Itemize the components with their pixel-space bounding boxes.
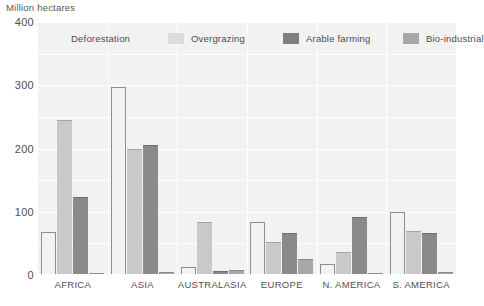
bar-group-s-america <box>386 22 456 275</box>
bar-deforestation-europe <box>250 222 265 275</box>
y-axis-tick-0: 0 <box>2 269 34 281</box>
bar-overgrazing-africa <box>57 120 72 275</box>
bar-overgrazing-n-america <box>336 252 351 275</box>
y-axis-tick-400: 400 <box>2 16 34 28</box>
x-axis-tick-africa: AFRICA <box>55 279 92 290</box>
plot-area <box>38 22 456 275</box>
bar-arable-farming-africa <box>73 197 88 275</box>
bar-overgrazing-asia <box>127 149 142 275</box>
legend-label: Overgrazing <box>191 33 245 44</box>
bar-arable-farming-europe <box>282 233 297 275</box>
bar-overgrazing-australasia <box>197 222 212 275</box>
legend-swatch-icon <box>168 33 184 44</box>
legend-item-arable-farming[interactable]: Arable farming <box>283 33 371 44</box>
bar-deforestation-s-america <box>390 212 405 275</box>
legend-label: Deforestation <box>71 33 130 44</box>
y-axis-tick-300: 300 <box>2 79 34 91</box>
legend-label: Arable farming <box>306 33 371 44</box>
bar-bio-industrial-europe <box>298 259 313 275</box>
legend-item-bio-industrial[interactable]: Bio-industrial <box>403 33 484 44</box>
legend-label: Bio-industrial <box>426 33 484 44</box>
bar-group-africa <box>38 22 108 275</box>
x-axis-tick-s-america: S. AMERICA <box>392 279 449 290</box>
bar-arable-farming-n-america <box>352 217 367 275</box>
y-axis-title: Million hectares <box>6 2 75 13</box>
bar-group-asia <box>108 22 178 275</box>
legend-item-deforestation[interactable]: Deforestation <box>48 33 130 44</box>
x-axis-tick-europe: EUROPE <box>261 279 303 290</box>
bar-overgrazing-s-america <box>406 231 421 275</box>
x-axis-tick-asia: ASIA <box>131 279 154 290</box>
bar-deforestation-asia <box>111 87 126 275</box>
bar-arable-farming-s-america <box>422 233 437 275</box>
legend-swatch-icon <box>403 33 419 44</box>
y-axis: 0100200300400 <box>0 22 34 275</box>
legend-item-overgrazing[interactable]: Overgrazing <box>168 33 245 44</box>
bar-deforestation-africa <box>41 232 56 275</box>
bar-group-n-america <box>317 22 387 275</box>
legend-swatch-icon <box>283 33 299 44</box>
x-axis-tick-n-america: N. AMERICA <box>323 279 381 290</box>
y-axis-tick-100: 100 <box>2 206 34 218</box>
x-axis-tick-australasia: AUSTRALASIA <box>178 279 247 290</box>
bar-group-australasia <box>177 22 247 275</box>
x-axis-baseline <box>38 274 456 275</box>
bar-group-europe <box>247 22 317 275</box>
x-axis: AFRICAASIAAUSTRALASIAEUROPEN. AMERICAS. … <box>38 279 456 299</box>
y-axis-tick-200: 200 <box>2 143 34 155</box>
bar-arable-farming-asia <box>143 145 158 275</box>
legend-swatch-icon <box>48 33 64 44</box>
bar-overgrazing-europe <box>266 242 281 275</box>
